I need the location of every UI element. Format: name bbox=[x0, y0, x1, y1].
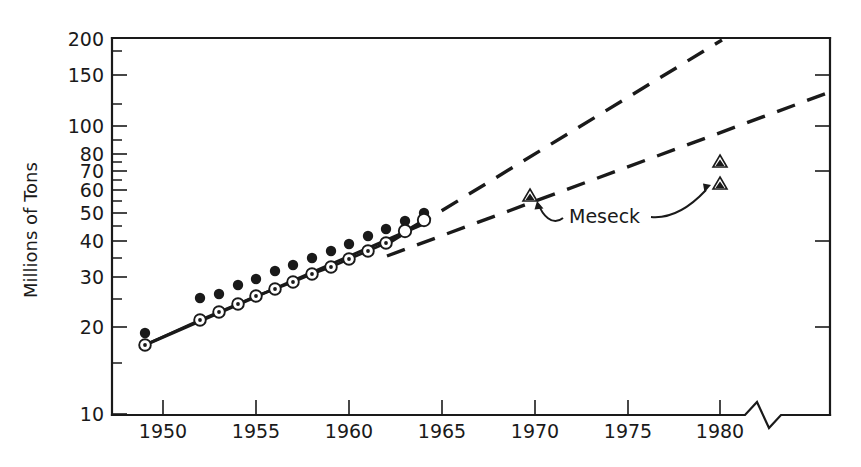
x-tick-labels: 1950 1955 1960 1965 1970 1975 1980 bbox=[139, 420, 744, 442]
meseck-arrow-left bbox=[539, 205, 563, 221]
data-point bbox=[288, 260, 298, 270]
data-point-triangle bbox=[713, 155, 727, 167]
y-minor-ticks bbox=[112, 51, 122, 363]
meseck-label: Meseck bbox=[569, 205, 640, 227]
meseck-arrowhead-left bbox=[535, 201, 544, 210]
y-tick-label-200: 200 bbox=[68, 28, 104, 50]
data-point bbox=[363, 231, 373, 241]
y-axis-title: Millions of Tons bbox=[20, 162, 41, 298]
data-point bbox=[250, 290, 262, 302]
lower-projection-line bbox=[387, 92, 830, 256]
x-tick-label-1970: 1970 bbox=[511, 420, 559, 442]
data-point bbox=[306, 268, 318, 280]
x-tick-label-1960: 1960 bbox=[325, 420, 373, 442]
x-tick-label-1950: 1950 bbox=[139, 420, 187, 442]
x-tick-label-1955: 1955 bbox=[232, 420, 280, 442]
x-tick-label-1965: 1965 bbox=[418, 420, 466, 442]
chart-figure: 10 20 30 40 50 60 70 80 100 150 200 Mill… bbox=[0, 0, 861, 467]
data-point bbox=[195, 293, 205, 303]
data-point bbox=[418, 214, 430, 226]
y-ticks-right bbox=[815, 75, 830, 327]
x-tick-label-1980: 1980 bbox=[696, 420, 744, 442]
data-point bbox=[139, 339, 151, 351]
data-point bbox=[325, 261, 337, 273]
data-point bbox=[287, 276, 299, 288]
data-point bbox=[362, 245, 374, 257]
y-tick-label-20: 20 bbox=[80, 316, 104, 338]
data-point bbox=[381, 224, 391, 234]
data-point bbox=[269, 283, 281, 295]
y-tick-label-40: 40 bbox=[80, 230, 104, 252]
data-point bbox=[270, 266, 280, 276]
y-tick-label-100: 100 bbox=[68, 115, 104, 137]
data-point bbox=[399, 225, 411, 237]
y-tick-label-60: 60 bbox=[80, 179, 104, 201]
plot-frame bbox=[112, 38, 830, 428]
data-point bbox=[380, 237, 392, 249]
data-point bbox=[213, 306, 225, 318]
data-point bbox=[140, 328, 150, 338]
data-point bbox=[232, 298, 244, 310]
data-point bbox=[233, 280, 243, 290]
x-tick-label-1975: 1975 bbox=[604, 420, 652, 442]
y-tick-labels: 10 20 30 40 50 60 70 80 100 150 200 bbox=[68, 28, 104, 425]
meseck-arrow-right bbox=[651, 190, 706, 217]
y-tick-label-150: 150 bbox=[68, 64, 104, 86]
data-point-triangle bbox=[523, 189, 537, 201]
meseck-annotation: Meseck bbox=[535, 184, 712, 228]
data-point bbox=[214, 289, 224, 299]
data-point bbox=[251, 274, 261, 284]
lower-circled-series bbox=[139, 214, 430, 351]
upper-filled-series bbox=[140, 208, 429, 338]
data-point bbox=[343, 253, 355, 265]
data-point bbox=[326, 246, 336, 256]
data-point bbox=[307, 253, 317, 263]
y-tick-label-30: 30 bbox=[80, 266, 104, 288]
y-tick-label-80: 80 bbox=[80, 143, 104, 165]
data-point bbox=[194, 314, 206, 326]
y-tick-label-10: 10 bbox=[80, 403, 104, 425]
x-ticks bbox=[163, 400, 720, 415]
chart-svg: 10 20 30 40 50 60 70 80 100 150 200 Mill… bbox=[0, 0, 861, 467]
y-tick-label-50: 50 bbox=[80, 202, 104, 224]
data-point-triangle bbox=[713, 177, 727, 189]
data-point bbox=[344, 239, 354, 249]
